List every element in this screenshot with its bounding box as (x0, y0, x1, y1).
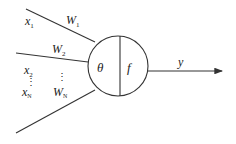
input-label-1: x1 (24, 14, 34, 30)
function-label: f (127, 60, 133, 75)
weight-label-n: WN (53, 85, 68, 99)
input-label-n: xN (21, 85, 32, 99)
input-ellipsis: ⋮ (26, 76, 36, 87)
weight-label-1: W1 (66, 13, 80, 29)
neuron-diagram: x1 x2 ⋮ xN W1 W2 ⋮ WN θ f y (0, 0, 236, 144)
threshold-label: θ (97, 60, 104, 75)
input-line-1 (26, 9, 95, 42)
weight-label-2: W2 (52, 42, 66, 58)
weight-ellipsis: ⋮ (57, 71, 67, 82)
output-label: y (177, 55, 184, 69)
